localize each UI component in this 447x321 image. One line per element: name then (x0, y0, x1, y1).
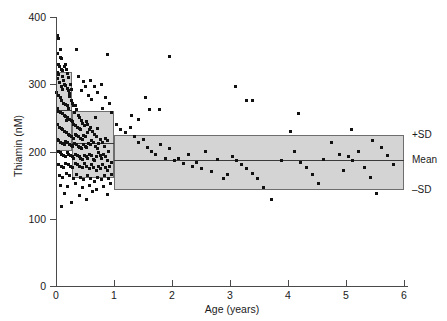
data-point (289, 130, 292, 133)
data-point (84, 85, 87, 88)
x-tick-0 (56, 280, 57, 286)
scatter-points-layer (0, 0, 447, 321)
data-point (305, 166, 308, 169)
data-point (119, 128, 122, 131)
data-point (75, 48, 78, 51)
data-point (124, 131, 127, 134)
x-tick-label-2: 2 (157, 289, 187, 301)
data-point (82, 178, 85, 181)
x-axis-line (56, 286, 408, 287)
data-point (96, 147, 99, 150)
data-point (80, 89, 83, 92)
annotation-mean: Mean (412, 155, 437, 165)
data-point (82, 80, 85, 83)
y-tick-label-100: 100 (0, 214, 46, 224)
data-point (93, 159, 96, 162)
data-point (182, 162, 185, 165)
data-point (200, 167, 203, 170)
x-axis-title: Age (years) (56, 303, 408, 315)
data-point (164, 157, 167, 160)
data-point (92, 141, 95, 144)
data-point (106, 169, 109, 172)
data-point (63, 192, 66, 195)
data-point (99, 167, 102, 170)
data-point (317, 182, 320, 185)
data-point (96, 91, 99, 94)
x-tick-label-0: 0 (41, 289, 71, 301)
data-point (84, 135, 87, 138)
data-point (61, 88, 64, 91)
data-point (168, 147, 171, 150)
x-tick-label-6: 6 (389, 289, 419, 301)
data-point (222, 177, 225, 180)
data-point (65, 68, 68, 71)
data-point (386, 154, 389, 157)
data-point (107, 150, 110, 153)
data-point (103, 145, 106, 148)
data-point (109, 182, 112, 185)
data-point (251, 99, 254, 102)
data-point (299, 161, 302, 164)
x-tick-3 (230, 280, 231, 286)
data-point (338, 153, 341, 156)
data-point (350, 128, 353, 131)
data-point (216, 158, 219, 161)
data-point (72, 177, 75, 180)
data-point (262, 186, 265, 189)
data-point (245, 167, 248, 170)
data-point (87, 94, 90, 97)
data-point (66, 185, 69, 188)
data-point (74, 104, 77, 107)
data-point (60, 57, 63, 60)
data-point (89, 143, 92, 146)
data-point (106, 159, 109, 162)
data-point (195, 161, 198, 164)
data-point (77, 75, 80, 78)
data-point (369, 176, 372, 179)
data-point (93, 180, 96, 183)
data-point (137, 141, 140, 144)
data-point (100, 83, 103, 86)
data-point (146, 146, 149, 149)
x-tick-2 (172, 280, 173, 286)
data-point (110, 111, 113, 114)
data-point (234, 85, 237, 88)
data-point (107, 177, 110, 180)
y-axis-title: Thiamin (nM) (12, 91, 24, 201)
data-point (86, 131, 89, 134)
data-point (61, 176, 64, 179)
data-point (75, 108, 78, 111)
data-point (251, 172, 254, 175)
data-point (106, 139, 109, 142)
data-point (85, 198, 88, 201)
data-point (245, 99, 248, 102)
y-tick-400 (50, 17, 56, 18)
data-point (106, 193, 109, 196)
data-point (173, 159, 176, 162)
data-point (74, 182, 77, 185)
data-point (108, 102, 111, 105)
data-point (100, 178, 103, 181)
data-point (158, 108, 161, 111)
data-point (110, 161, 113, 164)
data-point (58, 81, 61, 84)
data-point (78, 194, 81, 197)
y-tick-300 (50, 84, 56, 85)
data-point (106, 53, 109, 56)
data-point (67, 76, 70, 79)
data-point (347, 155, 350, 158)
data-point (65, 119, 68, 122)
data-point (280, 159, 283, 162)
data-point (88, 167, 91, 170)
data-point (226, 173, 229, 176)
data-point (357, 150, 360, 153)
x-tick-4 (288, 280, 289, 286)
data-point (57, 37, 60, 40)
data-point (60, 205, 63, 208)
data-point (104, 155, 107, 158)
data-point (72, 157, 75, 160)
data-point (375, 192, 378, 195)
data-point (96, 127, 99, 130)
data-point (81, 158, 84, 161)
data-point (148, 108, 151, 111)
